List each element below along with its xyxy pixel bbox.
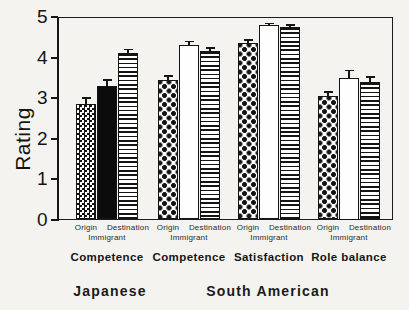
y-tick-label: 3: [22, 87, 48, 109]
bar: [97, 86, 117, 220]
error-bar-stem: [106, 80, 108, 86]
error-bar-cap: [206, 47, 215, 49]
group-label: Competence: [144, 251, 234, 264]
bar-sublabel-destination: Destination: [102, 223, 154, 232]
y-axis-tick: [51, 219, 58, 221]
error-bar-cap: [286, 24, 295, 26]
y-axis-tick: [51, 57, 58, 59]
bar-chart-figure: Rating 012345OriginDestinationImmigrantC…: [0, 0, 409, 310]
bar: [158, 80, 178, 220]
error-bar-cap: [366, 76, 375, 78]
bar-sublabel-immigrant: Immigrant: [165, 233, 213, 242]
bar-sublabel-origin: Origin: [66, 223, 106, 232]
cluster-label: Japanese: [20, 284, 200, 299]
bar: [238, 43, 258, 219]
error-bar-cap: [244, 39, 253, 41]
bar-sublabel-origin: Origin: [308, 223, 348, 232]
y-tick-label: 1: [22, 168, 48, 190]
bar: [360, 82, 380, 220]
y-axis-line: [57, 17, 60, 221]
bar: [179, 45, 199, 219]
error-bar-stem: [348, 70, 350, 77]
error-bar-cap: [265, 23, 274, 25]
bar: [118, 53, 138, 219]
y-tick-label: 2: [22, 128, 48, 150]
error-bar-cap: [345, 70, 354, 72]
bar: [200, 51, 220, 219]
bar-sublabel-origin: Origin: [228, 223, 268, 232]
error-bar-cap: [324, 91, 333, 93]
group-label: Satisfaction: [224, 251, 314, 264]
bar-sublabel-immigrant: Immigrant: [325, 233, 373, 242]
bar: [76, 104, 96, 219]
bar-sublabel-immigrant: Immigrant: [245, 233, 293, 242]
y-axis-tick: [51, 16, 58, 18]
cluster-label: South American: [178, 284, 358, 299]
y-axis-tick: [51, 97, 58, 99]
y-tick-label: 5: [22, 6, 48, 28]
error-bar-cap: [82, 97, 91, 99]
y-axis-tick: [51, 178, 58, 180]
y-axis-tick: [51, 138, 58, 140]
bar-sublabel-origin: Origin: [148, 223, 188, 232]
error-bar-cap: [164, 75, 173, 77]
bar-sublabel-destination: Destination: [344, 223, 396, 232]
error-bar-cap: [103, 79, 112, 81]
group-label: Competence: [62, 251, 152, 264]
error-bar-cap: [185, 41, 194, 43]
bar: [339, 78, 359, 220]
y-tick-label: 4: [22, 47, 48, 69]
bar-sublabel-immigrant: Immigrant: [83, 233, 131, 242]
bar: [259, 25, 279, 219]
y-tick-label: 0: [22, 209, 48, 231]
error-bar-cap: [124, 49, 133, 51]
bar: [280, 27, 300, 219]
bar: [318, 96, 338, 220]
error-bar-stem: [85, 98, 87, 104]
group-label: Role balance: [304, 251, 394, 264]
